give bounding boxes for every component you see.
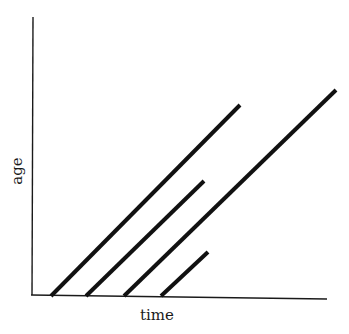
lifeline-1 xyxy=(51,105,240,296)
x-axis-label: time xyxy=(140,306,174,324)
y-axis-label: age xyxy=(8,156,26,186)
plot-area xyxy=(0,0,349,334)
lifeline-4 xyxy=(161,252,208,296)
x-axis xyxy=(31,295,327,299)
lexis-diagram: time age xyxy=(0,0,349,334)
y-axis xyxy=(32,17,33,295)
lifeline-3 xyxy=(124,90,336,296)
